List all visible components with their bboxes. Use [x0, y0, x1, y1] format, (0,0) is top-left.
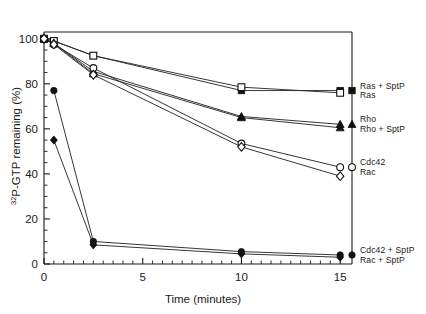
- legend-marker-2: [349, 164, 356, 171]
- y-axis-title: 32P-GTP remaining (%): [9, 87, 22, 205]
- series-line-rho: [44, 39, 340, 125]
- x-tick-label: 0: [41, 271, 47, 283]
- legend-marker-0: [349, 87, 355, 93]
- legend-label: Rac: [360, 167, 376, 177]
- series-line-rac: [44, 39, 340, 176]
- legend-label: Ras + SptP: [360, 81, 405, 91]
- x-axis-title: Time (minutes): [165, 293, 241, 305]
- marker-ras: [337, 89, 344, 96]
- legend-group: Ras + SptPRasRhoRho + SptPCdc42RacCdc42 …: [348, 81, 415, 265]
- marker-cdc42-sptp: [51, 87, 57, 93]
- marker-cdc42: [337, 164, 344, 171]
- y-tick-label: 0: [32, 258, 38, 270]
- tick-labels-group: 020406080100051015: [19, 33, 347, 283]
- x-tick-label: 5: [140, 271, 146, 283]
- series-line-ras: [44, 39, 340, 93]
- y-tick-label: 60: [25, 123, 38, 135]
- series-line-rho-sptp: [44, 39, 340, 128]
- y-axis-title-rest: P-GTP remaining (%): [10, 87, 22, 197]
- series-line-rac-sptp: [54, 140, 340, 257]
- legend-marker-3: [349, 252, 355, 258]
- series-line-cdc42-sptp: [54, 91, 340, 255]
- chart-page: 020406080100051015 Ras + SptPRasRhoRho +…: [0, 0, 426, 314]
- legend-label: Rho + SptP: [360, 124, 405, 134]
- x-tick-label: 15: [334, 271, 347, 283]
- y-tick-label: 80: [25, 78, 38, 90]
- y-axis-superscript: 32: [9, 197, 18, 205]
- y-tick-label: 40: [25, 168, 38, 180]
- legend-label: Cdc42: [360, 157, 385, 167]
- legend-label: Rho: [360, 114, 376, 124]
- y-tick-label: 20: [25, 213, 38, 225]
- x-tick-label: 10: [235, 271, 248, 283]
- marker-ras: [238, 84, 245, 91]
- marker-ras: [90, 52, 97, 59]
- series-group: [40, 34, 344, 261]
- legend-label: Cdc42 + SptP: [360, 245, 415, 255]
- legend-label: Ras: [360, 90, 376, 100]
- legend-marker-1: [348, 120, 356, 127]
- legend-label: Rac + SptP: [360, 255, 405, 265]
- gtp-hydrolysis-line-chart: 020406080100051015 Ras + SptPRasRhoRho +…: [0, 0, 426, 314]
- y-tick-label: 100: [19, 33, 38, 45]
- marker-rac-sptp: [50, 136, 57, 144]
- marker-rac: [336, 172, 343, 181]
